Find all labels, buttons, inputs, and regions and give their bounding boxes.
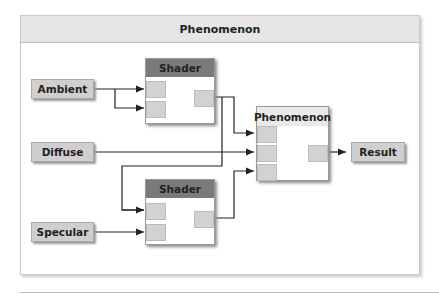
input-ambient[interactable]: Ambient: [31, 79, 94, 99]
input-specular[interactable]: Specular: [31, 222, 94, 242]
input-port[interactable]: [146, 224, 166, 241]
input-diffuse[interactable]: Diffuse: [31, 142, 94, 162]
result-output[interactable]: Result: [351, 142, 405, 162]
input-port[interactable]: [146, 101, 166, 118]
shader-node-top[interactable]: Shader: [145, 58, 215, 124]
phenomenon-node[interactable]: Phenomenon: [256, 106, 329, 181]
output-port[interactable]: [194, 90, 214, 107]
input-label: Diffuse: [42, 146, 84, 158]
bottom-divider: [20, 292, 439, 293]
result-label: Result: [359, 146, 397, 158]
shader-node-title: Shader: [146, 180, 214, 198]
input-port[interactable]: [146, 81, 166, 98]
shader-node-title: Shader: [146, 59, 214, 77]
input-label: Specular: [37, 226, 89, 238]
input-port[interactable]: [257, 145, 277, 162]
input-port[interactable]: [146, 203, 166, 220]
input-port[interactable]: [257, 164, 277, 181]
output-port[interactable]: [308, 145, 328, 162]
phenomenon-node-title: Phenomenon: [257, 107, 328, 126]
output-port[interactable]: [194, 211, 214, 228]
input-port[interactable]: [257, 126, 277, 143]
input-label: Ambient: [38, 83, 88, 95]
shader-node-bottom[interactable]: Shader: [145, 179, 215, 245]
